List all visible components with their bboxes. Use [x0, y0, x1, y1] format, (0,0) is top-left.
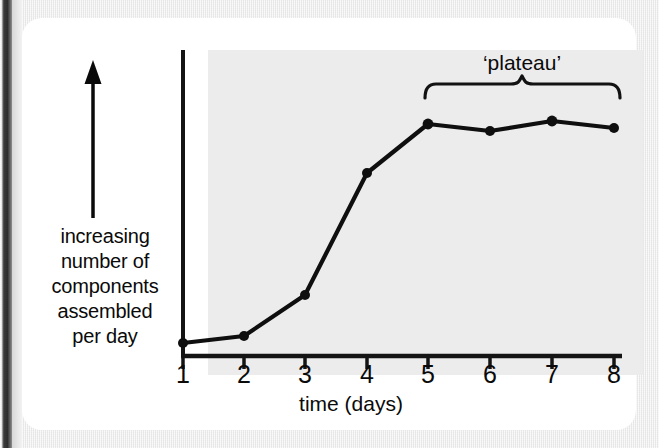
- book-page-edge: [12, 0, 22, 448]
- data-point: [485, 126, 495, 136]
- x-tick-label-2: 2: [229, 360, 259, 388]
- plateau-annotation-label: ‘plateau’: [422, 51, 622, 75]
- y-axis-arrow-icon: [85, 60, 102, 218]
- y-axis-caption-line-4: assembled: [30, 299, 180, 324]
- data-point: [239, 331, 249, 341]
- data-point-markers: [178, 116, 619, 348]
- data-point: [547, 116, 558, 127]
- y-axis-caption-line-5: per day: [30, 324, 180, 349]
- y-axis-caption: increasing number of components assemble…: [30, 224, 180, 349]
- data-point: [300, 290, 310, 300]
- x-tick-label-8: 8: [599, 360, 629, 388]
- x-tick-label-4: 4: [352, 360, 382, 388]
- x-tick-label-7: 7: [537, 360, 567, 388]
- x-axis-title: time (days): [22, 392, 636, 416]
- data-point: [423, 119, 434, 130]
- figure-card: increasing number of components assemble…: [22, 18, 636, 430]
- y-axis-caption-line-3: components: [30, 274, 180, 299]
- x-tick-label-6: 6: [475, 360, 505, 388]
- x-axis-title-text: time (days): [299, 392, 403, 416]
- data-point: [362, 168, 372, 178]
- scanned-page: increasing number of components assemble…: [0, 0, 659, 448]
- x-tick-label-3: 3: [290, 360, 320, 388]
- x-tick-label-1: 1: [168, 360, 198, 388]
- data-point: [609, 123, 619, 133]
- x-tick-label-5: 5: [413, 360, 443, 388]
- data-series-line: [183, 121, 614, 343]
- book-spine-shadow: [2, 0, 12, 448]
- plateau-brace: [425, 76, 620, 98]
- y-axis-caption-line-2: number of: [30, 249, 180, 274]
- y-axis-caption-line-1: increasing: [30, 224, 180, 249]
